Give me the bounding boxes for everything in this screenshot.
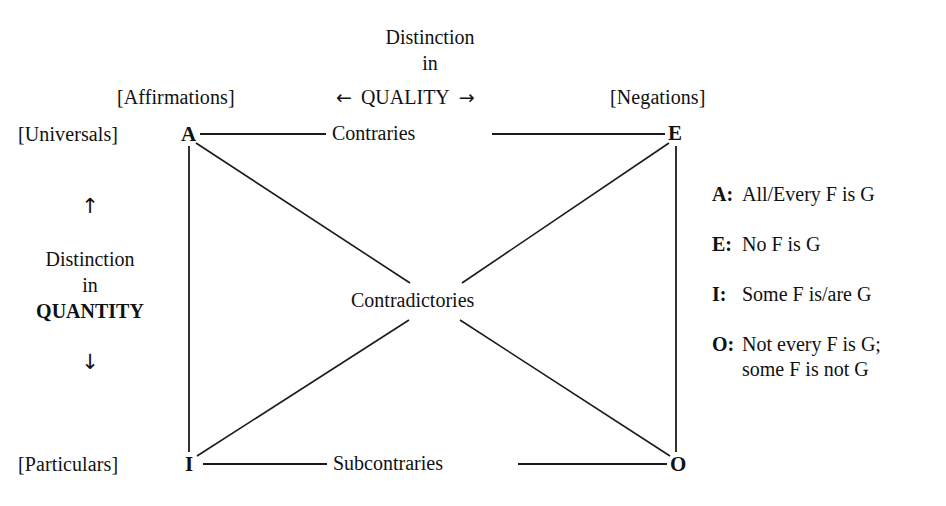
quality-axis-line1: Distinction <box>345 26 515 50</box>
line-contradictory-a-o-upper <box>196 143 410 283</box>
column-label-negations: [Negations] <box>610 87 706 107</box>
quality-axis-keyword: QUALITY <box>361 86 450 110</box>
vertex-e[interactable]: E <box>668 123 682 144</box>
legend-row-a: A: All/Every F is G <box>712 182 944 207</box>
column-label-affirmations: [Affirmations] <box>117 87 235 107</box>
row-label-universals: [Universals] <box>18 124 118 144</box>
quantity-axis-line1: Distinction <box>20 248 160 272</box>
legend-key-o: O: <box>712 332 742 357</box>
legend-text-e: No F is G <box>742 232 820 257</box>
square-of-opposition-diagram: Distinction in ← QUALITY → [Affirmations… <box>0 0 946 506</box>
quantity-up-arrow-icon: ↑ <box>40 196 140 217</box>
legend-text-o: Not every F is G; some F is not G <box>742 332 881 382</box>
legend-row-i: I: Some F is/are G <box>712 282 944 307</box>
vertex-o[interactable]: O <box>670 454 686 475</box>
quantity-down-arrow-icon: ↓ <box>40 352 140 373</box>
line-contradictory-e-i-lower <box>197 320 409 456</box>
quantity-axis-keyword: QUANTITY <box>20 300 160 324</box>
relation-label-subcontraries: Subcontraries <box>327 453 449 473</box>
quality-right-arrow-icon: → <box>459 88 475 107</box>
relation-label-contraries: Contraries <box>326 123 421 143</box>
vertex-i[interactable]: I <box>185 454 193 475</box>
legend-row-e: E: No F is G <box>712 232 944 257</box>
relation-label-contradictories: Contradictories <box>345 290 480 310</box>
legend-key-e: E: <box>712 232 742 257</box>
line-contradictory-a-o-lower <box>460 320 670 456</box>
vertex-a[interactable]: A <box>181 124 196 145</box>
line-contradictory-e-i-upper <box>462 143 669 283</box>
legend-key-a: A: <box>712 182 742 207</box>
legend-key-i: I: <box>712 282 742 307</box>
legend-text-a: All/Every F is G <box>742 182 875 207</box>
quality-axis-keyword-row: ← QUALITY → <box>336 86 475 110</box>
legend-row-o: O: Not every F is G; some F is not G <box>712 332 944 382</box>
quality-left-arrow-icon: ← <box>336 88 352 107</box>
legend-text-i: Some F is/are G <box>742 282 871 307</box>
quality-axis-line2: in <box>345 52 515 76</box>
legend: A: All/Every F is G E: No F is G I: Some… <box>712 182 944 382</box>
row-label-particulars: [Particulars] <box>18 454 118 474</box>
quantity-axis-line2: in <box>20 274 160 298</box>
